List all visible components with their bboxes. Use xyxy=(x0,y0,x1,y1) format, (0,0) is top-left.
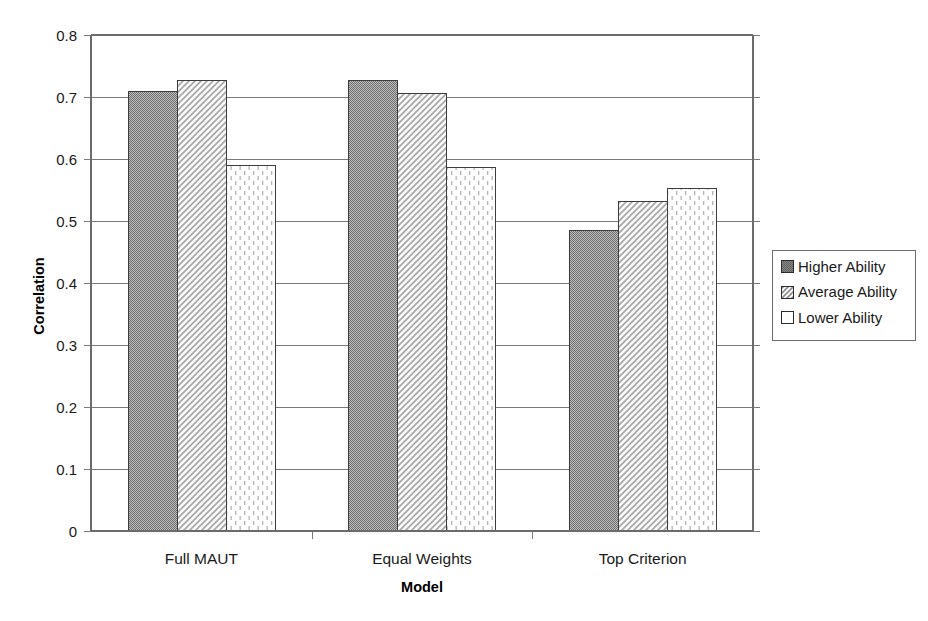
bar xyxy=(447,168,496,532)
y-tick-label: 0.7 xyxy=(56,89,77,106)
y-tick-label: 0.1 xyxy=(56,461,77,478)
x-axis-title: Model xyxy=(401,579,443,595)
x-category-label: Full MAUT xyxy=(165,550,239,567)
legend-item-label: Higher Ability xyxy=(798,258,886,275)
y-axis-tick-labels: 00.10.20.30.40.50.60.70.8 xyxy=(56,27,77,540)
bar xyxy=(227,166,276,532)
bar-series-group xyxy=(129,81,717,532)
legend-swatch xyxy=(782,312,794,324)
y-tick-label: 0 xyxy=(69,523,77,540)
y-axis-title: Correlation xyxy=(31,257,47,334)
y-tick-label: 0.3 xyxy=(56,337,77,354)
bar xyxy=(570,231,619,532)
x-category-label: Equal Weights xyxy=(372,550,472,567)
legend-item-label: Lower Ability xyxy=(798,309,883,326)
y-tick-label: 0.5 xyxy=(56,213,77,230)
bar xyxy=(349,81,398,532)
x-axis-category-labels: Full MAUTEqual WeightsTop Criterion xyxy=(165,550,687,567)
legend-swatch xyxy=(782,261,794,273)
bar xyxy=(668,189,717,532)
bar xyxy=(129,92,178,532)
y-tick-label: 0.8 xyxy=(56,27,77,44)
y-tick-label: 0.4 xyxy=(56,275,77,292)
legend-item-label: Average Ability xyxy=(798,283,897,300)
chart-figure: 00.10.20.30.40.50.60.70.8 Full MAUTEqual… xyxy=(0,0,928,621)
x-category-label: Top Criterion xyxy=(599,550,687,567)
chart-legend: Higher AbilityAverage AbilityLower Abili… xyxy=(773,251,916,341)
bar xyxy=(619,202,668,532)
legend-swatch xyxy=(782,286,794,298)
bar-chart: 00.10.20.30.40.50.60.70.8 Full MAUTEqual… xyxy=(0,0,928,621)
y-tick-label: 0.2 xyxy=(56,399,77,416)
bar xyxy=(178,81,227,532)
bar xyxy=(398,94,447,532)
y-tick-label: 0.6 xyxy=(56,151,77,168)
